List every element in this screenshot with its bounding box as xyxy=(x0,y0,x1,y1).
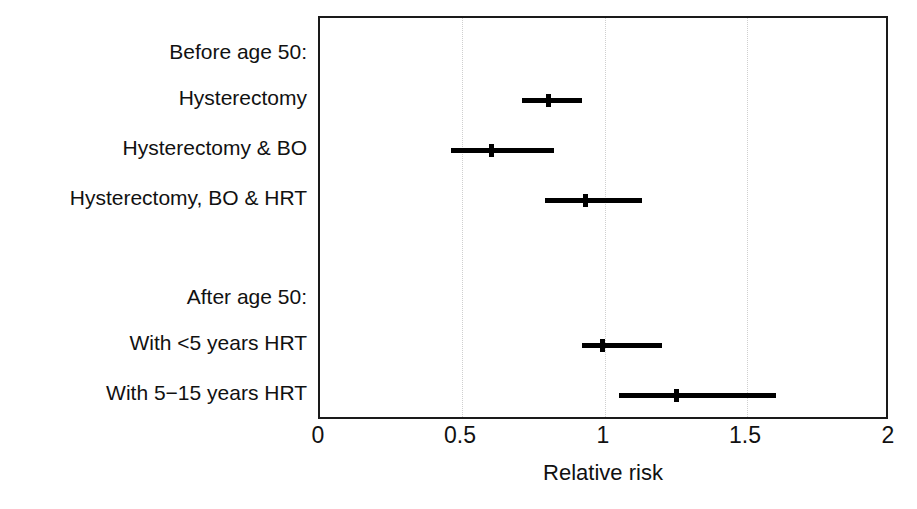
forest-plot-figure: Before age 50: Hysterectomy Hysterectomy… xyxy=(0,0,917,509)
confidence-interval-bar xyxy=(582,343,662,348)
row-labels-column: Before age 50: Hysterectomy Hysterectomy… xyxy=(0,0,307,509)
xtick-label-1: 1 xyxy=(573,424,633,447)
confidence-interval-bar xyxy=(545,198,642,203)
row-label-with-5-15-years-hrt: With 5−15 years HRT xyxy=(0,382,307,403)
x-axis-title: Relative risk xyxy=(318,462,888,484)
row-label-with-lt5-years-hrt: With <5 years HRT xyxy=(0,332,307,353)
row-label-before-age-50: Before age 50: xyxy=(0,41,307,62)
gridline-1-0 xyxy=(605,18,607,417)
confidence-interval-bar xyxy=(451,148,554,153)
xtick-label-1-5: 1.5 xyxy=(715,424,775,447)
point-estimate-marker xyxy=(583,194,588,207)
gridline-0-5 xyxy=(462,18,464,417)
point-estimate-marker xyxy=(674,389,679,402)
row-label-hysterectomy: Hysterectomy xyxy=(0,87,307,108)
gridline-1-5 xyxy=(747,18,749,417)
point-estimate-marker xyxy=(489,144,494,157)
xtick-label-0-5: 0.5 xyxy=(430,424,490,447)
xtick-label-0: 0 xyxy=(288,424,348,447)
point-estimate-marker xyxy=(546,94,551,107)
plot-area xyxy=(318,16,888,419)
confidence-interval-bar xyxy=(619,393,776,398)
point-estimate-marker xyxy=(600,339,605,352)
row-label-after-age-50: After age 50: xyxy=(0,286,307,307)
row-label-hysterectomy-bo-hrt: Hysterectomy, BO & HRT xyxy=(0,187,307,208)
row-label-hysterectomy-bo: Hysterectomy & BO xyxy=(0,137,307,158)
xtick-label-2: 2 xyxy=(858,424,917,447)
confidence-interval-bar xyxy=(522,98,582,103)
